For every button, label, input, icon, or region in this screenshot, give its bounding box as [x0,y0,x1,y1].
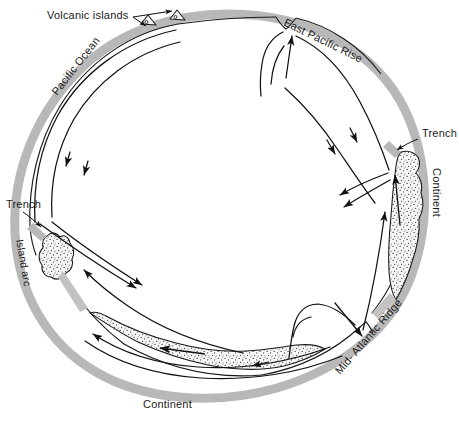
flow-right-tick-2 [327,140,335,154]
continent-bottom-landmass [90,312,325,369]
label-trench-left: Trench [6,198,41,210]
plate-tectonics-diagram: Volcanic islands East Pacific Rise Pacif… [0,0,459,422]
flow-right-trench-out-2 [344,180,390,207]
flow-epr-left-limb [260,32,283,96]
flow-epr-upwelling [286,36,292,78]
convection-flow-lines [35,30,390,379]
label-continent-bottom: Continent [143,398,192,410]
label-east-pacific-rise: East Pacific Rise [282,16,365,64]
island-arc-landmass [39,233,74,279]
continent-right-landmass [389,151,423,300]
flow-left-tick-1 [66,152,70,166]
label-volcanic-islands: Volcanic islands [47,9,129,21]
flow-right-tick-1 [350,128,357,142]
flow-epr-left-limb-2 [271,46,284,84]
flow-right-trench-out-1 [340,173,388,195]
diagram-canvas: Volcanic islands East Pacific Rise Pacif… [0,0,459,422]
label-continent-right: Continent [431,168,443,217]
flow-left-outer [35,30,176,222]
label-trench-right: Trench [422,127,457,139]
lithosphere-outline [30,24,404,376]
flow-left-tick-2 [84,161,88,175]
